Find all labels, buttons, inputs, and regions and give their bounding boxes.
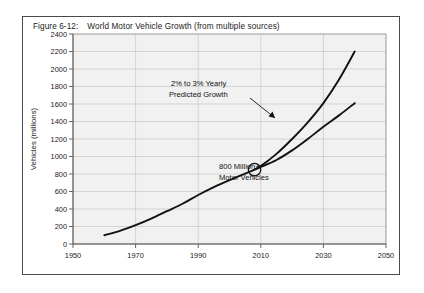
y-tick-label: 0 [63,240,67,249]
milestone-annotation-line-2: Motor Vehicles [219,173,269,182]
vehicle-growth-chart: 2400 2200 2000 1800 1600 1400 1200 1000 … [23,17,401,276]
y-tick-label: 2400 [51,30,67,39]
y-tick-label: 200 [55,222,67,231]
y-tick-label: 2000 [51,65,67,74]
y-axis-tick-labels: 2400 2200 2000 1800 1600 1400 1200 1000 … [51,30,67,249]
x-tick-label: 1990 [190,251,206,260]
x-tick-label: 1950 [65,251,81,260]
y-tick-label: 1200 [51,135,67,144]
y-axis-tick-marks [69,34,73,244]
x-tick-label: 1970 [127,251,143,260]
x-tick-label: 2010 [253,251,269,260]
y-tick-label: 1000 [51,152,67,161]
growth-annotation-line-1: 2% to 3% Yearly [171,79,227,88]
milestone-annotation-line-1: 800 Million+ [219,162,260,171]
x-tick-label: 2030 [315,251,331,260]
growth-annotation-line-2: Predicted Growth [169,90,228,99]
x-axis-tick-labels: 1950 1970 1990 2010 2030 2050 [65,251,394,260]
y-axis-title: Vehicles (millions) [29,107,38,170]
y-tick-label: 1600 [51,100,67,109]
x-axis-tick-marks [73,244,386,248]
y-tick-label: 1800 [51,82,67,91]
y-tick-label: 2200 [51,47,67,56]
y-tick-label: 400 [55,205,67,214]
x-tick-label: 2050 [378,251,394,260]
figure-frame: Figure 6-12:World Motor Vehicle Growth (… [22,16,400,275]
y-tick-label: 800 [55,170,67,179]
y-tick-label: 600 [55,187,67,196]
y-tick-label: 1400 [51,117,67,126]
